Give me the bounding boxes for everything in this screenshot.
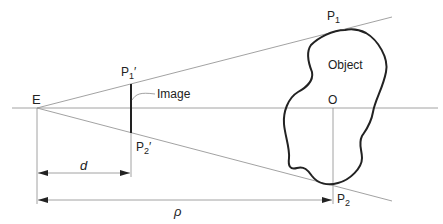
label-p1: P1 (327, 10, 340, 25)
label-p2-sub: 2 (345, 198, 350, 208)
label-object: Object (328, 59, 363, 71)
label-p2: P2 (337, 193, 350, 208)
label-p1-prime-mark: ′ (134, 65, 136, 79)
arrowhead-icon (120, 170, 130, 176)
image-leader (132, 93, 155, 100)
label-p1-sub: 1 (335, 15, 340, 25)
label-eye: E (32, 93, 41, 106)
label-p2-prime: P2′ (136, 141, 151, 156)
arrowhead-icon (38, 170, 48, 176)
label-p2-prime-mark: ′ (149, 140, 151, 154)
arrowhead-icon (322, 197, 332, 203)
label-p1-prime: P1′ (121, 66, 136, 81)
arrowhead-icon (38, 197, 48, 203)
label-p1-letter: P (327, 9, 335, 23)
label-p1-prime-letter: P (121, 65, 129, 79)
label-p2-prime-letter: P (136, 140, 144, 154)
label-image: Image (157, 88, 190, 100)
perspective-diagram (0, 0, 443, 224)
label-origin: O (328, 94, 337, 106)
label-dimension-rho: ρ (174, 205, 181, 218)
ray-lower (37, 108, 392, 201)
label-p2-letter: P (337, 192, 345, 206)
label-dimension-d: d (80, 159, 87, 172)
